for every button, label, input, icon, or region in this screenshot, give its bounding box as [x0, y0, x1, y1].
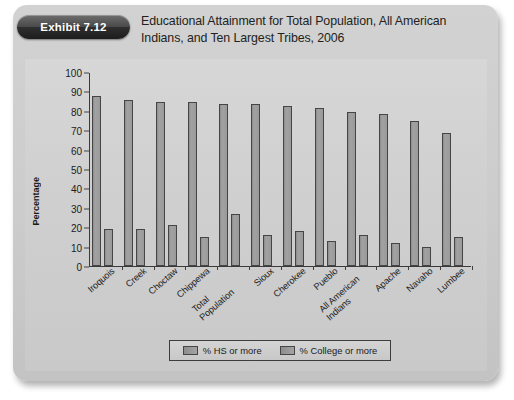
legend-swatch-icon	[183, 346, 198, 355]
exhibit-header: Exhibit 7.12 Educational Attainment for …	[13, 5, 498, 59]
exhibit-card: Exhibit 7.12 Educational Attainment for …	[13, 5, 498, 381]
bar-hs-or-more[interactable]	[410, 121, 419, 266]
x-axis-tick-label: Navaho	[405, 266, 435, 294]
x-axis-tick-label: Pueblo	[311, 266, 339, 292]
legend-label: % College or more	[300, 345, 378, 356]
bar-college-or-more[interactable]	[327, 241, 336, 266]
legend-label: % HS or more	[203, 345, 262, 356]
x-axis-tick-mark	[376, 266, 377, 270]
x-axis-tick-label: Iroquois	[86, 266, 117, 294]
x-axis-tick-mark	[249, 266, 250, 270]
bar-group: Choctaw	[154, 73, 186, 266]
bar-hs-or-more[interactable]	[219, 104, 228, 266]
bar-group: Chippewa	[186, 73, 218, 266]
bar-group: Total Population	[217, 73, 249, 266]
bar-group: All American Indians	[345, 73, 377, 266]
bar-group: Cherokee	[281, 73, 313, 266]
bar-college-or-more[interactable]	[231, 214, 240, 266]
x-axis-tick-label: Cherokee	[271, 266, 307, 299]
bar-college-or-more[interactable]	[200, 237, 209, 266]
x-axis-tick-mark	[472, 266, 473, 270]
y-axis-tick-label: 30	[71, 203, 82, 214]
bar-group: Iroquois	[90, 73, 122, 266]
bar-group: Creek	[122, 73, 154, 266]
y-axis-tick-label: 10	[71, 242, 82, 253]
legend-item[interactable]: % College or more	[280, 345, 378, 356]
x-axis-tick-label: Apache	[373, 266, 403, 294]
exhibit-title: Educational Attainment for Total Populat…	[141, 13, 481, 46]
plot-area: IroquoisCreekChoctawChippewaTotal Popula…	[89, 73, 471, 267]
bar-hs-or-more[interactable]	[188, 102, 197, 266]
legend-item[interactable]: % HS or more	[183, 345, 262, 356]
bar-hs-or-more[interactable]	[124, 100, 133, 266]
bar-hs-or-more[interactable]	[156, 102, 165, 266]
y-axis-tick-label: 90	[71, 87, 82, 98]
bar-group: Lumbee	[440, 73, 472, 266]
y-axis-tick-label: 60	[71, 145, 82, 156]
bar-college-or-more[interactable]	[136, 229, 145, 266]
x-axis-tick-mark	[345, 266, 346, 270]
y-axis-tick-label: 20	[71, 223, 82, 234]
y-axis-tick-label: 0	[76, 262, 82, 273]
bar-group: Pueblo	[313, 73, 345, 266]
bar-hs-or-more[interactable]	[283, 106, 292, 266]
bar-college-or-more[interactable]	[391, 243, 400, 266]
chart-legend: % HS or more% College or more	[169, 340, 391, 361]
x-axis-tick-mark	[122, 266, 123, 270]
x-axis-tick-label: Creek	[123, 266, 148, 289]
bar-college-or-more[interactable]	[454, 237, 463, 266]
y-axis-tick-label: 80	[71, 106, 82, 117]
chart-frame: Percentage 0102030405060708090100 Iroquo…	[25, 59, 487, 371]
y-axis-title: Percentage	[31, 177, 45, 226]
x-axis-tick-label: Lumbee	[435, 266, 466, 295]
y-axis-tick-label: 70	[71, 126, 82, 137]
bar-college-or-more[interactable]	[295, 231, 304, 266]
bar-chart: Percentage 0102030405060708090100 Iroquo…	[25, 59, 487, 371]
bar-hs-or-more[interactable]	[442, 133, 451, 266]
x-axis-tick-mark	[313, 266, 314, 270]
bar-group: Navaho	[408, 73, 440, 266]
bar-hs-or-more[interactable]	[92, 96, 101, 266]
bar-college-or-more[interactable]	[422, 247, 431, 266]
x-axis-tick-label: Sioux	[252, 266, 276, 288]
exhibit-badge: Exhibit 7.12	[17, 15, 130, 39]
x-axis-tick-mark	[440, 266, 441, 270]
bar-college-or-more[interactable]	[359, 235, 368, 266]
bar-group: Sioux	[249, 73, 281, 266]
bar-hs-or-more[interactable]	[347, 112, 356, 266]
bar-college-or-more[interactable]	[263, 235, 272, 266]
y-axis-tick-label: 40	[71, 184, 82, 195]
bar-hs-or-more[interactable]	[315, 108, 324, 266]
bar-hs-or-more[interactable]	[379, 114, 388, 266]
x-axis-tick-mark	[154, 266, 155, 270]
y-axis-ticks: 0102030405060708090100	[45, 73, 89, 267]
x-axis-tick-mark	[217, 266, 218, 270]
y-axis-tick-label: 100	[65, 68, 82, 79]
legend-swatch-icon	[280, 346, 295, 355]
bar-hs-or-more[interactable]	[251, 104, 260, 266]
bar-group: Apache	[377, 73, 409, 266]
y-axis-tick-label: 50	[71, 165, 82, 176]
x-axis-tick-mark	[408, 266, 409, 270]
x-axis-tick-mark	[281, 266, 282, 270]
bar-college-or-more[interactable]	[168, 225, 177, 266]
bar-college-or-more[interactable]	[104, 229, 113, 266]
x-axis-tick-mark	[185, 266, 186, 270]
